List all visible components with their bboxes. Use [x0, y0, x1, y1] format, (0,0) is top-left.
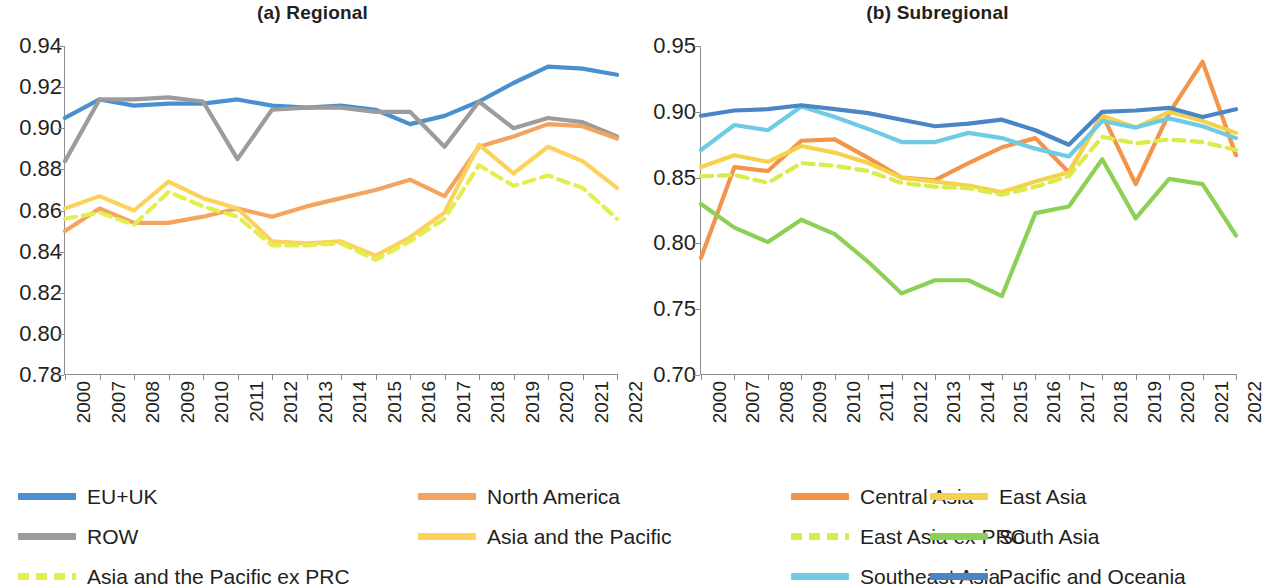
panel-regional: (a) Regional 0.940.920.900.880.860.840.8…: [0, 0, 625, 574]
legend-item[interactable]: East Asia: [930, 486, 1087, 507]
legend-item[interactable]: Asia and the Pacific ex PRC: [18, 566, 350, 587]
x-tick-label: 2013: [943, 381, 965, 423]
y-tick-label: 0.88: [19, 156, 62, 182]
legend-swatch-icon: [418, 493, 476, 500]
x-tick-label: 2014: [977, 381, 999, 423]
y-tick-label: 0.84: [19, 239, 62, 265]
x-tick-label: 2021: [1211, 381, 1233, 423]
x-tick-label: 2017: [453, 381, 475, 423]
x-tick-label: 2014: [349, 381, 371, 423]
legend-swatch-icon: [930, 533, 988, 540]
x-tick-label: 2019: [1144, 381, 1166, 423]
series-line: [65, 67, 617, 125]
x-tick-label: 2020: [556, 381, 578, 423]
y-tick-label: 0.90: [653, 99, 696, 125]
y-tick-mark: [694, 309, 700, 310]
y-tick-mark: [58, 334, 64, 335]
legend-item[interactable]: ROW: [18, 526, 138, 547]
x-tick-label: 2012: [280, 381, 302, 423]
y-tick-mark: [694, 112, 700, 113]
y-tick-mark: [58, 375, 64, 376]
y-tick-mark: [694, 178, 700, 179]
legend-label: South Asia: [999, 526, 1099, 547]
legend-swatch-icon: [791, 573, 849, 580]
legend-label: EU+UK: [87, 486, 158, 507]
series-line: [65, 165, 617, 260]
x-tick-label: 2009: [809, 381, 831, 423]
x-tick-label: 2008: [776, 381, 798, 423]
y-tick-mark: [694, 46, 700, 47]
x-tick-label: 2007: [108, 381, 130, 423]
y-axis-labels-regional: 0.940.920.900.880.860.840.820.800.78: [0, 46, 62, 375]
y-tick-mark: [58, 87, 64, 88]
legend-swatch-icon: [18, 533, 76, 540]
panel-title-regional: (a) Regional: [0, 2, 625, 24]
series-canvas-regional: [64, 46, 618, 375]
legend-swatch-icon: [930, 493, 988, 500]
x-tick-label: 2016: [1043, 381, 1065, 423]
y-tick-label: 0.70: [653, 362, 696, 388]
y-tick-label: 0.82: [19, 280, 62, 306]
legend-swatch-icon: [930, 573, 988, 580]
x-tick-label: 2019: [522, 381, 544, 423]
x-tick-label: 2011: [876, 381, 898, 422]
x-tick-label: 2020: [1177, 381, 1199, 423]
y-tick-label: 0.80: [653, 230, 696, 256]
x-tick-label: 2012: [910, 381, 932, 423]
legend-item[interactable]: North America: [418, 486, 620, 507]
legend-label: Asia and the Pacific ex PRC: [87, 566, 350, 587]
x-tick-label: 2007: [742, 381, 764, 423]
x-tick-label: 2010: [843, 381, 865, 423]
x-tick-label: 2018: [487, 381, 509, 423]
legend-item[interactable]: South Asia: [930, 526, 1099, 547]
legend-item[interactable]: EU+UK: [18, 486, 158, 507]
y-tick-label: 0.94: [19, 33, 62, 59]
y-tick-mark: [694, 375, 700, 376]
x-tick-label: 2016: [418, 381, 440, 423]
series-canvas-subregional: [700, 46, 1237, 375]
series-line: [701, 159, 1236, 296]
x-tick-label: 2015: [384, 381, 406, 423]
y-tick-label: 0.90: [19, 115, 62, 141]
y-tick-label: 0.86: [19, 198, 62, 224]
x-tick-label: 2000: [709, 381, 731, 423]
x-tick-label: 2000: [73, 381, 95, 423]
y-tick-mark: [58, 128, 64, 129]
y-axis-labels-subregional: 0.950.900.850.800.750.70: [634, 46, 696, 375]
legend-label: East Asia: [999, 486, 1087, 507]
legend-swatch-icon: [18, 493, 76, 500]
legend-label: Pacific and Oceania: [999, 566, 1186, 587]
y-tick-label: 0.85: [653, 165, 696, 191]
y-tick-mark: [58, 211, 64, 212]
x-tick-label: 2011: [246, 381, 268, 422]
y-tick-mark: [58, 46, 64, 47]
plot-area-regional: 0.940.920.900.880.860.840.820.800.78 200…: [64, 46, 618, 375]
x-tick-label: 2009: [177, 381, 199, 423]
x-tick-label: 2022: [1244, 381, 1266, 423]
x-tick-label: 2015: [1010, 381, 1032, 423]
y-tick-mark: [58, 252, 64, 253]
y-tick-label: 0.80: [19, 321, 62, 347]
legend-regional: EU+UKNorth AmericaROWAsia and the Pacifi…: [0, 464, 625, 574]
y-tick-mark: [58, 169, 64, 170]
x-tick-label: 2008: [142, 381, 164, 423]
legend-label: ROW: [87, 526, 138, 547]
x-tick-label: 2010: [211, 381, 233, 423]
legend-swatch-icon: [791, 493, 849, 500]
y-tick-label: 0.92: [19, 74, 62, 100]
legend-label: North America: [487, 486, 620, 507]
panel-subregional: (b) Subregional 0.950.900.850.800.750.70…: [625, 0, 1250, 574]
y-tick-mark: [58, 293, 64, 294]
y-tick-mark: [694, 243, 700, 244]
series-line: [701, 107, 1236, 157]
x-tick-label: 2013: [315, 381, 337, 423]
plot-area-subregional: 0.950.900.850.800.750.70 200020072008200…: [700, 46, 1237, 375]
y-tick-label: 0.75: [653, 296, 696, 322]
panel-title-subregional: (b) Subregional: [625, 2, 1250, 24]
legend-item[interactable]: Pacific and Oceania: [930, 566, 1186, 587]
x-tick-label: 2021: [591, 381, 613, 423]
x-tick-label: 2018: [1110, 381, 1132, 423]
y-tick-label: 0.95: [653, 33, 696, 59]
legend-subregional: Central AsiaEast AsiaEast Asia ex PRCSou…: [625, 464, 1250, 574]
